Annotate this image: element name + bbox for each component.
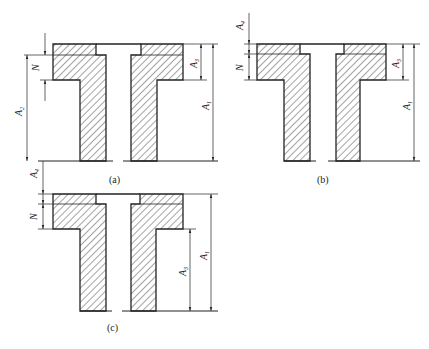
- dim-label-A3: A3: [177, 267, 189, 277]
- dim-label-A4: A4: [234, 21, 246, 31]
- panel-label-a: (a): [109, 174, 120, 186]
- panel-label-b: (b): [317, 174, 329, 186]
- dim-label-A3: A3: [188, 59, 200, 69]
- panel-label-c: (c): [107, 322, 118, 334]
- dim-label-A1: A1: [401, 101, 413, 111]
- dim-label-N: N: [30, 63, 41, 72]
- dim-label-A4: A4: [28, 169, 40, 179]
- part-b-right-half: [336, 44, 386, 161]
- panel-b: A4 N A3 A1 (b): [234, 13, 420, 186]
- panel-c: A4 N A3 A1 (c): [28, 161, 218, 334]
- part-a-right-half: [131, 44, 183, 161]
- dim-label-N: N: [28, 212, 39, 221]
- dim-label-A1: A1: [200, 101, 212, 111]
- part-c-right-half: [131, 194, 183, 311]
- dimension-chain-figure: N A2 A3 A1 (a) A4 N A3: [0, 0, 429, 349]
- part-a-left-half: [53, 44, 106, 161]
- part-b-left-half: [257, 44, 310, 161]
- dim-label-A1: A1: [198, 251, 210, 261]
- part-c-left-half: [53, 194, 106, 311]
- dim-label-N: N: [234, 63, 245, 72]
- dim-label-A3: A3: [390, 59, 402, 69]
- panel-a: N A2 A3 A1 (a): [13, 33, 218, 186]
- dim-label-A2: A2: [13, 107, 25, 117]
